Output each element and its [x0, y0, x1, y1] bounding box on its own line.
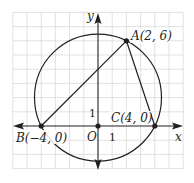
x-axis-label: x: [175, 130, 182, 144]
point-o: [95, 123, 100, 128]
point-b: [39, 123, 44, 128]
label-b: B(−4, 0): [15, 131, 67, 145]
x-tick-label: 1: [109, 131, 116, 144]
point-a: [124, 38, 129, 43]
label-c: C(4, 0): [111, 111, 153, 125]
coordinate-diagram: A(2, 6) B(−4, 0) C(4, 0) O 1 1 x y: [0, 0, 194, 183]
label-a: A(2, 6): [130, 29, 172, 43]
y-tick-label: 1: [89, 107, 96, 120]
y-axis-label: y: [86, 9, 94, 23]
point-c: [152, 123, 157, 128]
label-origin: O: [87, 130, 97, 144]
